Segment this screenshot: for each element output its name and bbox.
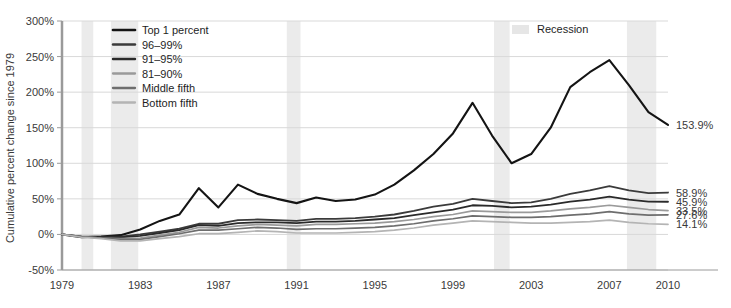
legend-label: 91–95% <box>142 53 183 65</box>
series-end-labels: 153.9%58.9%45.9%33.5%27.6%14.1% <box>676 119 714 230</box>
series-line <box>62 186 668 237</box>
y-axis-tick-label: 50% <box>32 193 54 205</box>
chart-container: -50%0%50%100%150%200%250%300% 1979198319… <box>0 0 731 308</box>
recession-legend-label: Recession <box>537 23 588 35</box>
series-line <box>62 212 668 240</box>
x-axis-tick-label: 1995 <box>363 279 387 291</box>
recession-legend-swatch <box>512 25 529 34</box>
series-end-label: 14.1% <box>676 218 707 230</box>
x-axis-tick-label: 2010 <box>656 279 680 291</box>
x-axis-tick-label: 1983 <box>128 279 152 291</box>
y-axis-tick-label: -50% <box>28 264 54 276</box>
y-axis-tick-label: 150% <box>26 122 54 134</box>
legend-label: 96–99% <box>142 39 183 51</box>
y-axis-ticks: -50%0%50%100%150%200%250%300% <box>26 15 62 276</box>
x-axis-ticks: 197919831987199119951999200320072010 <box>50 279 680 291</box>
legend-label: 81–90% <box>142 68 183 80</box>
x-axis-tick-label: 1987 <box>206 279 230 291</box>
y-axis-tick-label: 250% <box>26 51 54 63</box>
y-axis-title: Cumulative percent change since 1979 <box>4 53 16 243</box>
recession-legend: Recession <box>512 23 588 35</box>
y-axis-tick-label: 100% <box>26 157 54 169</box>
x-axis-tick-label: 2007 <box>597 279 621 291</box>
x-axis-tick-label: 2003 <box>519 279 543 291</box>
line-chart: -50%0%50%100%150%200%250%300% 1979198319… <box>0 0 731 308</box>
x-axis-tick-label: 1991 <box>284 279 308 291</box>
y-axis-tick-label: 0% <box>38 228 54 240</box>
x-axis-tick-label: 1999 <box>441 279 465 291</box>
recession-band <box>494 21 510 270</box>
series-end-label: 153.9% <box>676 119 714 131</box>
y-axis-tick-label: 200% <box>26 86 54 98</box>
legend-label: Middle fifth <box>142 82 195 94</box>
recession-band <box>627 21 656 270</box>
y-axis-tick-label: 300% <box>26 15 54 27</box>
legend-label: Top 1 percent <box>142 24 209 36</box>
x-axis-tick-label: 1979 <box>50 279 74 291</box>
legend-label: Bottom fifth <box>142 97 198 109</box>
recession-band <box>82 21 94 270</box>
